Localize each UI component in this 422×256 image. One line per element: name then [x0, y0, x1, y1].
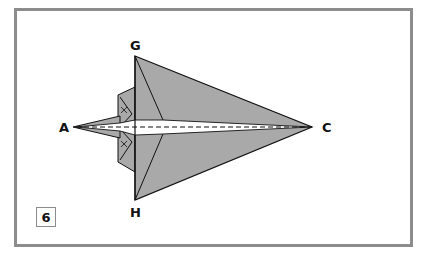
point-label-g: G — [130, 39, 141, 52]
step-number-badge: 6 — [36, 207, 56, 227]
point-label-h: H — [130, 206, 141, 219]
point-label-c: C — [322, 121, 332, 134]
step-number: 6 — [41, 210, 50, 225]
point-label-a: A — [59, 121, 69, 134]
